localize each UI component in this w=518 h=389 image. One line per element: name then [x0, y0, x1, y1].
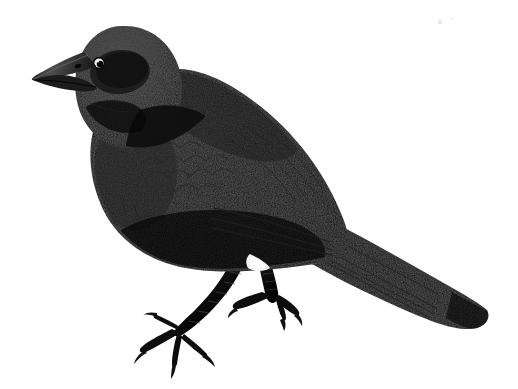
bird-illustration-canvas: Black-and-white engraving of a black bir…	[0, 0, 518, 389]
bird-eye	[93, 57, 105, 69]
bird-illustration-svg	[0, 0, 518, 389]
